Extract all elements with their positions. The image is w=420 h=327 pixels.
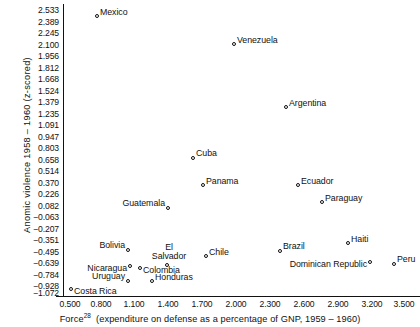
x-axis-title: Force28 (expenditure on defense as a per… bbox=[0, 312, 420, 324]
point-label-line2: Salvador bbox=[142, 252, 196, 261]
x-tick-label: 1.400 bbox=[157, 299, 178, 310]
y-tick-label: 0.226 bbox=[0, 190, 59, 199]
x-tick-label: 3.200 bbox=[361, 299, 382, 310]
point-label: Peru bbox=[397, 255, 415, 264]
point-label: Bolivia bbox=[99, 241, 125, 250]
y-tick-label: −0.639 bbox=[0, 259, 59, 268]
point-marker bbox=[126, 279, 130, 283]
y-tick-label: 1.524 bbox=[0, 87, 59, 96]
point-label: Venezuela bbox=[237, 36, 278, 45]
point-marker bbox=[346, 241, 350, 245]
y-tick-label: 1.379 bbox=[0, 98, 59, 107]
y-tick-label: 2.100 bbox=[0, 41, 59, 50]
x-tick-label: 1.100 bbox=[123, 299, 144, 310]
point-marker bbox=[320, 200, 324, 204]
scatter-chart-figure: Anomic violence 1958 – 1960 (z-scored) 2… bbox=[0, 0, 420, 327]
point-marker bbox=[150, 279, 154, 283]
point-label: Uruguay bbox=[92, 272, 125, 281]
y-tick-label: 0.370 bbox=[0, 179, 59, 188]
point-marker bbox=[138, 266, 142, 270]
point-marker bbox=[69, 287, 73, 291]
point-label: Chile bbox=[209, 248, 229, 257]
y-tick-label: 2.533 bbox=[0, 6, 59, 15]
y-tick-label: 0.947 bbox=[0, 133, 59, 142]
y-tick-label: 2.245 bbox=[0, 29, 59, 38]
point-marker bbox=[126, 248, 130, 252]
point-marker bbox=[232, 42, 236, 46]
x-tick-label: 2.600 bbox=[293, 299, 314, 310]
point-label: Cuba bbox=[196, 149, 217, 158]
y-tick-label: −1.072 bbox=[0, 289, 59, 298]
point-label: Dominican Republic bbox=[290, 260, 367, 269]
x-tick-label: 0.800 bbox=[90, 299, 111, 310]
point-label: Brazil bbox=[283, 242, 305, 251]
point-label: Honduras bbox=[155, 273, 193, 282]
point-marker bbox=[95, 14, 99, 18]
y-tick-label: 1.668 bbox=[0, 75, 59, 84]
y-tick-label: 1.235 bbox=[0, 110, 59, 119]
point-marker bbox=[166, 206, 170, 210]
y-tick-label: 1.812 bbox=[0, 64, 59, 73]
y-tick-label: 0.803 bbox=[0, 144, 59, 153]
point-marker bbox=[278, 249, 282, 253]
x-axis-title-main: Force bbox=[60, 314, 84, 324]
y-axis-line bbox=[63, 4, 64, 296]
x-tick-label: 2.300 bbox=[259, 299, 280, 310]
x-tick-label: 2.900 bbox=[327, 299, 348, 310]
point-marker bbox=[201, 183, 205, 187]
y-tick-label: −0.351 bbox=[0, 236, 59, 245]
point-marker bbox=[296, 183, 300, 187]
y-tick-label: 1.956 bbox=[0, 52, 59, 61]
point-label: Paraguay bbox=[325, 194, 362, 203]
point-label: Argentina bbox=[289, 99, 326, 108]
x-axis-title-footnote: 28 bbox=[84, 312, 91, 319]
y-tick-label: −0.063 bbox=[0, 213, 59, 222]
x-tick-label: 2.000 bbox=[225, 299, 246, 310]
y-tick-label: −0.784 bbox=[0, 271, 59, 280]
y-axis-tick-labels: 2.533 2.389 2.245 2.100 1.956 1.812 1.66… bbox=[0, 6, 59, 294]
point-marker bbox=[392, 262, 396, 266]
y-tick-label: 0.082 bbox=[0, 202, 59, 211]
point-label: Ecuador bbox=[301, 177, 333, 186]
x-axis-tick-labels: 0.500 0.800 1.100 1.400 1.700 2.000 2.30… bbox=[0, 299, 420, 312]
point-marker bbox=[191, 156, 195, 160]
x-tick-label: 1.700 bbox=[191, 299, 212, 310]
point-marker bbox=[128, 264, 132, 268]
y-tick-label: −0.495 bbox=[0, 248, 59, 257]
y-tick-label: 2.389 bbox=[0, 18, 59, 27]
x-axis-title-rest: (expenditure on defense as a percentage … bbox=[96, 314, 360, 324]
y-tick-label: 0.658 bbox=[0, 156, 59, 165]
point-label: Panama bbox=[206, 177, 238, 186]
point-label: Costa Rica bbox=[74, 287, 117, 296]
point-label: Haiti bbox=[351, 235, 368, 244]
x-tick-label: 3.500 bbox=[393, 299, 414, 310]
point-label: Mexico bbox=[100, 8, 128, 17]
point-label: Guatemala bbox=[122, 199, 165, 208]
y-tick-label: 1.091 bbox=[0, 121, 59, 130]
point-marker bbox=[284, 105, 288, 109]
y-tick-label: 0.514 bbox=[0, 167, 59, 176]
point-marker bbox=[204, 254, 208, 258]
y-tick-label: −0.207 bbox=[0, 225, 59, 234]
x-tick-label: 0.500 bbox=[59, 299, 80, 310]
point-marker bbox=[368, 260, 372, 264]
